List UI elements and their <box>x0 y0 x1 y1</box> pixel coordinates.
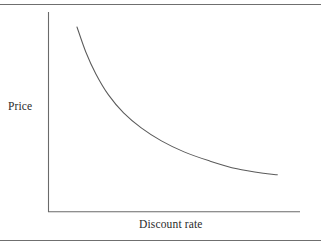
figure-container: Price Discount rate <box>0 0 321 248</box>
y-axis-label: Price <box>8 100 32 113</box>
price-discount-curve <box>77 27 277 175</box>
plot-area <box>0 0 321 248</box>
bottom-horizontal-rule <box>0 240 321 241</box>
x-axis-label: Discount rate <box>139 218 203 231</box>
